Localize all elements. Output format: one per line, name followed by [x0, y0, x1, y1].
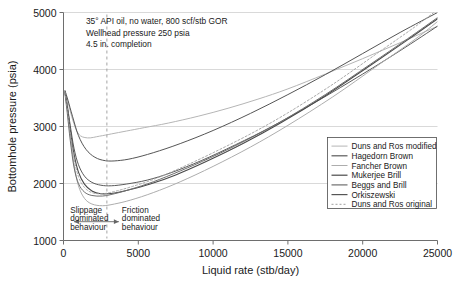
x-tick-label-10000: 10000 — [198, 247, 227, 259]
regime-arrow-head-right — [114, 219, 119, 224]
legend-label-0: Duns and Ros modified — [352, 142, 438, 151]
x-tick-label-15000: 15000 — [273, 247, 302, 259]
x-tick-label-25000: 25000 — [423, 247, 452, 259]
vlp-chart-figure: 1000200030004000500005000100001500020000… — [0, 0, 459, 291]
annotation-conditions-line-2: Wellhead pressure 250 psia — [86, 28, 190, 38]
legend: Duns and Ros modifiedHagedorn BrownFanch… — [328, 138, 438, 210]
x-tick-label-20000: 20000 — [348, 247, 377, 259]
legend-label-2: Fancher Brown — [352, 162, 408, 171]
y-tick-label-4000: 4000 — [33, 64, 57, 76]
x-axis-title: Liquid rate (stb/day) — [202, 264, 299, 276]
legend-label-6: Duns and Ros original — [352, 200, 433, 209]
x-tick-label-5000: 5000 — [127, 247, 151, 259]
annotation-friction-label-3: behaviour — [122, 223, 158, 232]
y-tick-label-3000: 3000 — [33, 121, 57, 133]
x-tick-label-0: 0 — [61, 247, 67, 259]
legend-label-3: Mukerjee Brill — [352, 171, 402, 180]
y-axis-title: Bottomhole pressure (psia) — [6, 60, 18, 192]
annotation-conditions-line-3: 4.5 in. completion — [86, 39, 152, 49]
annotation-slippage-label-3: behaviour — [70, 223, 106, 232]
chart-canvas: 1000200030004000500005000100001500020000… — [0, 0, 459, 291]
annotation-conditions-line-1: 35° API oil, no water, 800 scf/stb GOR — [86, 16, 228, 26]
y-tick-label-5000: 5000 — [33, 7, 57, 19]
y-tick-label-1000: 1000 — [33, 235, 57, 247]
legend-label-5: Orkiszewski — [352, 191, 396, 200]
y-tick-label-2000: 2000 — [33, 178, 57, 190]
legend-label-1: Hagedorn Brown — [352, 152, 414, 161]
legend-label-4: Beggs and Brill — [352, 181, 407, 190]
